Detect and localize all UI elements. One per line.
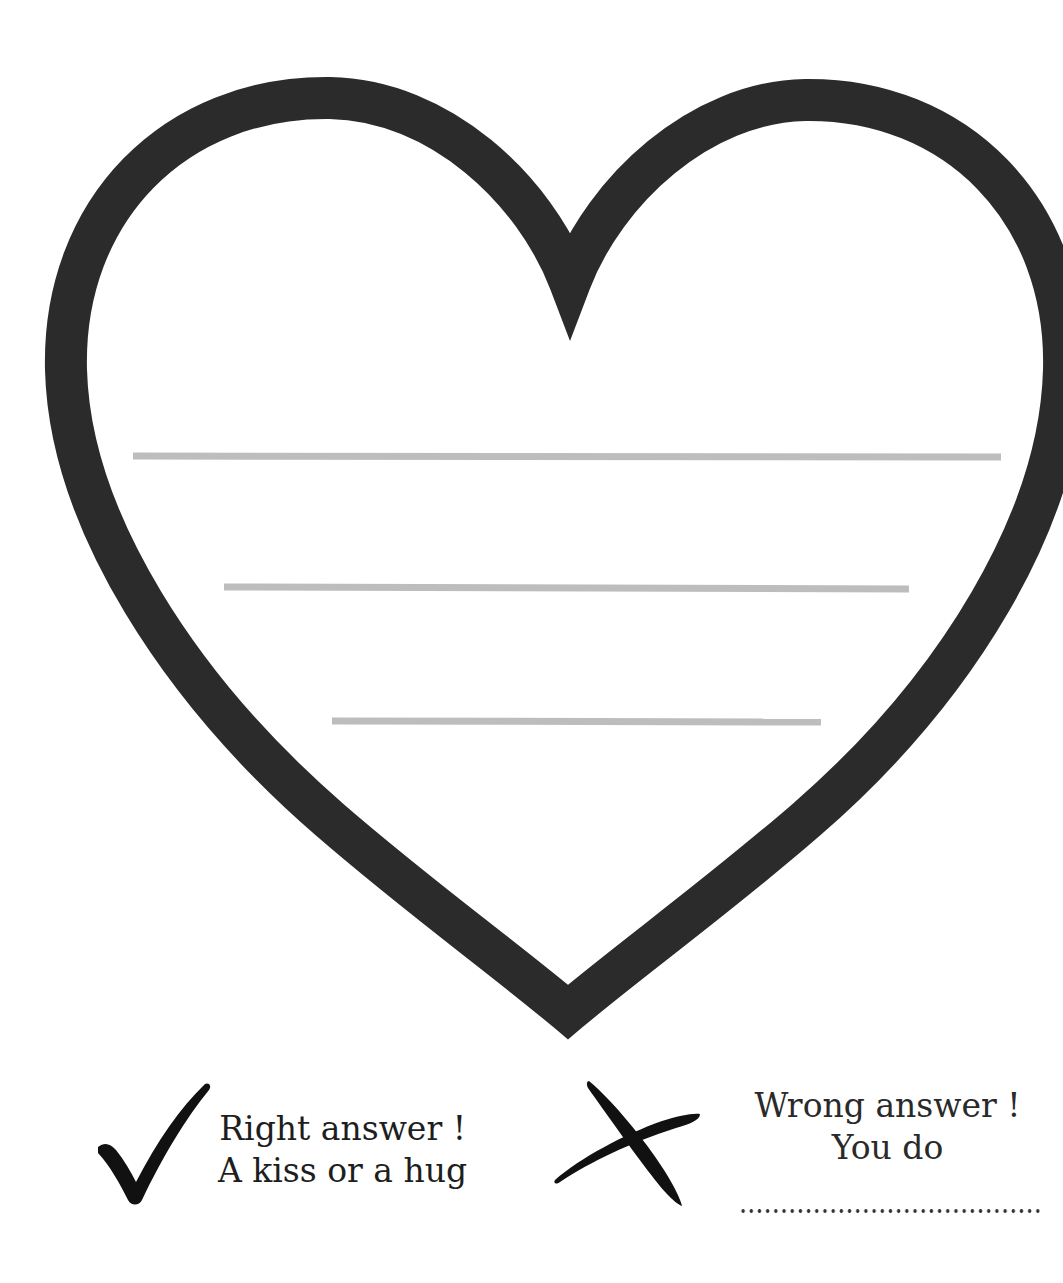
check-mark-icon — [98, 1083, 210, 1204]
heart-shape — [66, 98, 1063, 1012]
right-answer-line2: A kiss or a hug — [218, 1150, 467, 1192]
writing-line-3 — [332, 721, 821, 722]
right-answer-line1: Right answer ! — [218, 1108, 467, 1150]
writing-line-1 — [133, 456, 1001, 457]
wrong-answer-caption: Wrong answer ! You do — [735, 1085, 1040, 1169]
x-mark-icon — [554, 1081, 700, 1206]
right-answer-caption: Right answer ! A kiss or a hug — [218, 1108, 467, 1192]
writing-line-2 — [224, 587, 909, 589]
wrong-answer-line2: You do — [735, 1127, 1040, 1169]
wrong-answer-line1: Wrong answer ! — [735, 1085, 1040, 1127]
fill-in-dotted-line[interactable] — [739, 1209, 1041, 1213]
